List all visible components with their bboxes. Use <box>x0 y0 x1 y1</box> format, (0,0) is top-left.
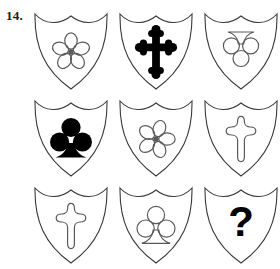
shield-cell-row3-col1[interactable] <box>30 182 112 268</box>
shield-cell-row3-col2[interactable] <box>115 182 197 268</box>
matrix-puzzle: 14. <box>0 0 280 269</box>
question-number: 14. <box>6 8 23 24</box>
shield-outline-icon <box>30 182 112 268</box>
shield-grid: ? <box>30 8 280 268</box>
shield-outline-icon <box>115 8 197 94</box>
shield-outline-icon <box>200 95 280 181</box>
shield-cell-row2-col3[interactable] <box>200 95 280 181</box>
shield-cell-row1-col3[interactable] <box>200 8 280 94</box>
shield-cell-row3-col3[interactable]: ? <box>200 182 280 268</box>
shield-outline-icon <box>30 95 112 181</box>
shield-outline-icon <box>200 8 280 94</box>
shield-cell-row1-col2[interactable] <box>115 8 197 94</box>
shield-outline-icon <box>115 182 197 268</box>
shield-cell-row1-col1[interactable] <box>30 8 112 94</box>
shield-outline-icon <box>115 95 197 181</box>
question-mark-placeholder: ? <box>200 182 280 268</box>
shield-outline-icon <box>30 8 112 94</box>
shield-cell-row2-col1[interactable] <box>30 95 112 181</box>
shield-cell-row2-col2[interactable] <box>115 95 197 181</box>
